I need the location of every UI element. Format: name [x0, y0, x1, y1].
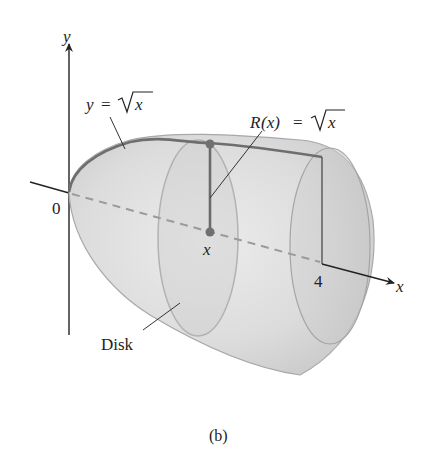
y-axis-label: y	[61, 27, 71, 46]
svg-text:(x): (x)	[261, 113, 280, 132]
svg-text:x: x	[327, 113, 336, 132]
curve-point	[206, 140, 215, 149]
svg-text:y: y	[84, 95, 94, 114]
x-axis-label: x	[395, 277, 404, 296]
svg-text:x: x	[134, 95, 143, 114]
solid-of-revolution-figure: y 0 x 4 x Disk y = x R (x) = x (b)	[0, 0, 439, 471]
disk	[158, 140, 238, 336]
x-axis-negative	[30, 182, 69, 193]
origin-label: 0	[52, 199, 61, 218]
disk-label: Disk	[101, 335, 134, 354]
svg-text:=: =	[293, 113, 303, 132]
svg-text:=: =	[101, 95, 111, 114]
point-x-label: x	[202, 240, 211, 259]
x-tick-4-label: 4	[314, 272, 323, 291]
curve-equation-label: y = x	[84, 92, 153, 114]
radius-equation-label: R (x) = x	[249, 110, 345, 132]
axis-point	[206, 228, 215, 237]
figure-caption: (b)	[209, 427, 228, 445]
svg-text:R: R	[249, 113, 261, 132]
end-face-rim	[290, 148, 370, 344]
